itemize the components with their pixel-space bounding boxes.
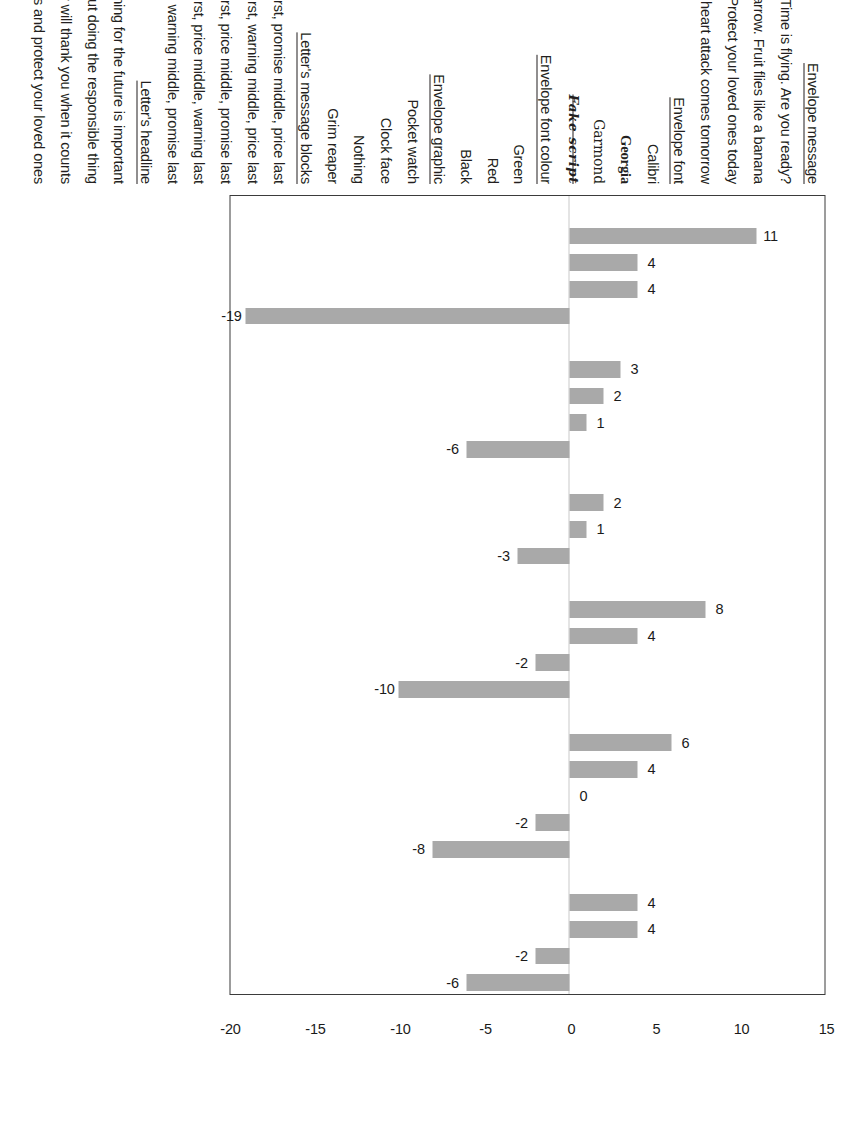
- category-label: Green: [511, 144, 526, 184]
- bar-value-label: -6: [422, 441, 482, 457]
- bar-value-label: -3: [474, 548, 534, 564]
- bar-value-label: -8: [388, 841, 448, 857]
- axis-tick-label: 15: [804, 1021, 848, 1037]
- axis-tick-label: -5: [463, 1021, 507, 1037]
- category-label: Calibri: [644, 144, 659, 184]
- axis-tick-label: 10: [719, 1021, 763, 1037]
- category-label: Georgia: [618, 135, 633, 184]
- bar-value-label: 2: [587, 388, 647, 404]
- bar-value-label: 1: [570, 521, 630, 537]
- category-label: Protect your loved ones today: [724, 0, 739, 184]
- category-label: Price first, warning middle, promise las…: [164, 0, 179, 184]
- bar-value-label: 1: [570, 415, 630, 431]
- bar-value-label: -19: [201, 308, 261, 324]
- bar-value-label: 3: [604, 361, 664, 377]
- category-group-header: Letter's message blocks: [298, 32, 313, 184]
- axis-tick-label: -20: [208, 1021, 252, 1037]
- bar: [432, 841, 568, 858]
- axis-tick-label: -10: [378, 1021, 422, 1037]
- category-label: Why planning for the future is important: [111, 0, 126, 184]
- bar-value-label: -2: [491, 815, 551, 831]
- category-label: Pocket watch: [404, 100, 419, 184]
- category-axis-labels: Envelope messageTime is flying. Are you …: [229, 0, 825, 190]
- category-label: Garmond: [591, 119, 605, 184]
- category-label: About doing the responsible thing: [84, 0, 99, 184]
- category-group-header: Envelope font: [671, 97, 686, 184]
- category-label: Black: [458, 149, 473, 184]
- plot-area: 1144-19321-621-384-2-10640-2-844-2-6: [229, 195, 825, 995]
- axis-tick-label: 5: [634, 1021, 678, 1037]
- category-label: Your heart attack comes tomorrow: [698, 0, 713, 184]
- category-label: Promise first, price middle, warning las…: [191, 0, 206, 184]
- bar-value-label: 4: [621, 281, 681, 297]
- bar-value-label: -10: [354, 681, 414, 697]
- bar-value-label: -2: [491, 948, 551, 964]
- bar-value-label: 4: [621, 255, 681, 271]
- category-group-header: Letter's headline: [138, 81, 153, 184]
- category-label: Warning first, promise middle, price las…: [271, 0, 286, 184]
- category-group-header: Envelope message: [804, 63, 819, 184]
- bar: [569, 228, 756, 245]
- bar: [569, 601, 705, 618]
- category-label: Time flies like an arrow. Fruit flies li…: [751, 0, 766, 184]
- bar-value-label: 4: [621, 761, 681, 777]
- bar-value-label: 6: [655, 735, 715, 751]
- axis-tick-label: 0: [549, 1021, 593, 1037]
- bar-value-label: 8: [689, 601, 749, 617]
- axis-tick-label: -15: [293, 1021, 337, 1037]
- category-label: Your family will thank you when it count…: [58, 0, 73, 184]
- category-label: Time is flying. Are you ready?: [778, 0, 793, 184]
- category-label: Promise first, warning middle, price las…: [244, 0, 259, 184]
- bar-value-label: 0: [553, 788, 613, 804]
- category-label: Stop finding excuses and protect your lo…: [31, 0, 46, 184]
- category-label: Nothing: [351, 135, 366, 184]
- category-group-header: Envelope font colour: [538, 55, 553, 184]
- bar-value-label: 4: [621, 895, 681, 911]
- category-label: Warning first, price middle, promise las…: [218, 0, 233, 184]
- rotated-figure-wrapper: Envelope messageTime is flying. Are you …: [0, 0, 853, 1132]
- category-label: Clock face: [378, 118, 393, 184]
- bar-chart-figure: Envelope messageTime is flying. Are you …: [0, 0, 853, 1132]
- bar-value-label: 4: [621, 628, 681, 644]
- bar-value-label: 11: [740, 228, 800, 244]
- bar-value-label: -6: [422, 975, 482, 991]
- category-label: Grim reaper: [324, 108, 339, 184]
- category-label: Fake script: [565, 95, 579, 184]
- bar-value-label: 2: [587, 495, 647, 511]
- category-label: Red: [484, 158, 499, 184]
- category-group-header: Envelope graphic: [431, 74, 446, 184]
- bar: [398, 681, 568, 698]
- bar-value-label: -2: [491, 655, 551, 671]
- bar: [245, 308, 569, 325]
- bar-value-label: 4: [621, 921, 681, 937]
